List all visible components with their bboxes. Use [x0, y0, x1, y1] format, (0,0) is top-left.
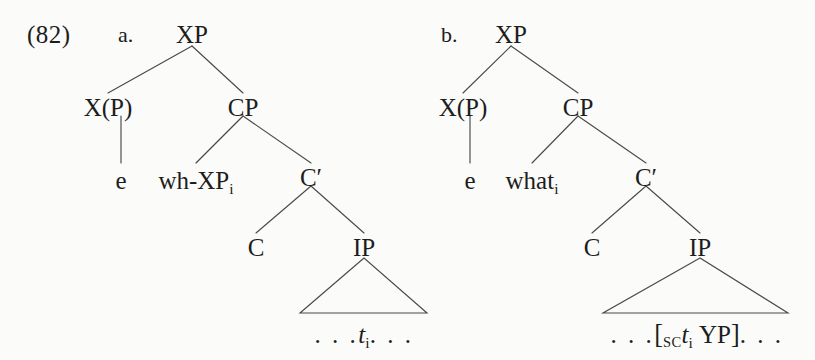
- tree-a-spec-text: wh-XP: [158, 167, 229, 194]
- tree-a-leaf-e: e: [115, 168, 126, 193]
- branch-a-xp-to-xhead: [108, 46, 192, 93]
- tree-b-leading-dots: . . .: [610, 321, 654, 348]
- branch-b-cbar-to-ip: [646, 186, 700, 233]
- tree-a-node-ip: IP: [353, 235, 375, 260]
- tree-b-node-c: C: [584, 235, 601, 260]
- tree-a-node-xp: XP: [176, 22, 208, 47]
- tree-b-spec-what: whati: [506, 168, 559, 193]
- branch-a-xp-to-cp: [192, 46, 243, 93]
- branch-b-xp-to-cp: [511, 46, 578, 93]
- tree-a-item-letter: a.: [118, 24, 133, 46]
- tree-a-leading-dots: . . .: [315, 321, 359, 348]
- tree-a-triangle-content: . . .ti. . .: [315, 322, 414, 347]
- tree-b-node-xp: XP: [495, 22, 527, 47]
- branch-a-cp-to-spec: [196, 116, 243, 163]
- tree-b-trailing-dots: . . .: [740, 321, 784, 348]
- tree-a-node-c: C: [248, 235, 265, 260]
- branch-b-xp-to-xhead: [463, 46, 511, 93]
- tree-b-phrase-label: YP: [699, 321, 731, 348]
- example-number: (82): [27, 22, 71, 47]
- branch-a-cbar-to-c: [256, 186, 311, 233]
- tree-a-trace: t: [358, 321, 365, 348]
- tree-b-node-x-head: X(P): [439, 95, 488, 120]
- tree-b-leaf-e: e: [464, 168, 475, 193]
- tree-b-trace: t: [682, 321, 689, 348]
- tree-b-spec-index: i: [554, 180, 558, 197]
- triangle-b-ip: [603, 258, 788, 313]
- tree-b-node-cp: CP: [563, 95, 594, 120]
- branch-b-cbar-to-c: [592, 186, 646, 233]
- branch-a-cbar-to-ip: [311, 186, 364, 233]
- tree-a-trace-index: i: [365, 334, 369, 351]
- tree-b-close-bracket: ]: [731, 320, 740, 349]
- branch-b-cp-to-spec: [532, 116, 578, 163]
- tree-a-node-cp: CP: [228, 95, 259, 120]
- tree-b-bracket-subscript: SC: [663, 334, 682, 350]
- tree-b-spec-text: what: [506, 167, 555, 194]
- tree-b-node-c-bar: C′: [635, 165, 657, 190]
- syntax-tree-figure: (82) a. XP X(P) CP e wh-XPi C′ C IP . . …: [0, 0, 815, 360]
- branch-a-cp-to-cbar: [243, 116, 311, 163]
- tree-b-triangle-content: . . .[SCti YP]. . .: [610, 322, 783, 348]
- tree-b-node-ip: IP: [689, 235, 711, 260]
- triangle-a-ip: [300, 258, 427, 313]
- tree-a-spec-wh-xp: wh-XPi: [158, 168, 233, 193]
- tree-b-item-letter: b.: [441, 24, 458, 46]
- tree-b-trace-index: i: [688, 334, 692, 351]
- branch-b-cp-to-cbar: [578, 116, 646, 163]
- tree-a-node-c-bar: C′: [300, 165, 322, 190]
- tree-a-spec-index: i: [229, 180, 233, 197]
- tree-b-open-bracket: [: [654, 320, 663, 349]
- tree-a-node-x-head: X(P): [84, 95, 133, 120]
- tree-a-trailing-dots: . . .: [370, 321, 414, 348]
